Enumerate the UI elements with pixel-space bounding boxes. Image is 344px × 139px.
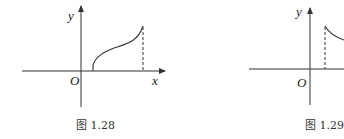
curve [325, 26, 344, 40]
y-axis-label: y [296, 5, 302, 18]
origin-label: O [70, 74, 79, 87]
figure-1-29 [249, 8, 344, 105]
figure-caption: 图 1.28 [76, 120, 115, 131]
origin-label: O [297, 76, 306, 89]
x-axis-label: x [152, 74, 158, 87]
figure-caption: 图 1.29 [305, 120, 344, 131]
figures-canvas [0, 0, 344, 139]
curve [93, 26, 143, 71]
y-axis-label: y [68, 9, 74, 22]
figure-1-28 [22, 6, 165, 107]
